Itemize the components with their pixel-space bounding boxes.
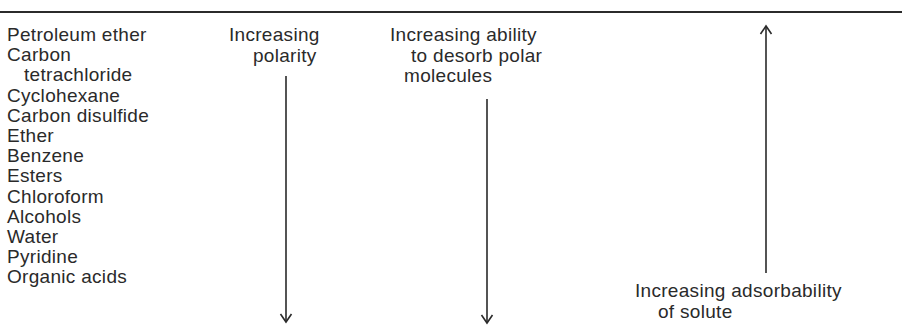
desorb-down-arrow-icon: [480, 99, 494, 325]
top-rule: [0, 11, 902, 13]
polarity-down-arrow-icon: [279, 76, 293, 324]
solvent-item: Alcohols: [7, 207, 149, 227]
solvent-item: Chloroform: [7, 187, 149, 207]
solvent-item: Benzene: [7, 146, 149, 166]
solvent-item: Esters: [7, 166, 149, 186]
solvent-item: Carbon: [7, 45, 149, 65]
polarity-label: Increasing polarity: [229, 25, 320, 66]
adsorbability-label: Increasing adsorbability of solute: [635, 281, 842, 322]
adsorbability-up-arrow-icon: [759, 24, 773, 274]
solvent-item: Water: [7, 227, 149, 247]
solvent-item: Cyclohexane: [7, 86, 149, 106]
desorb-label: Increasing ability to desorb polar molec…: [390, 25, 542, 87]
solvent-item: Petroleum ether: [7, 25, 149, 45]
solvent-item: Carbon disulfide: [7, 106, 149, 126]
solvent-list: Petroleum ether Carbon tetrachloride Cyc…: [7, 25, 149, 288]
solvent-item: Ether: [7, 126, 149, 146]
solvent-item: Organic acids: [7, 267, 149, 287]
solvent-item: Pyridine: [7, 247, 149, 267]
solvent-item: tetrachloride: [7, 65, 149, 85]
